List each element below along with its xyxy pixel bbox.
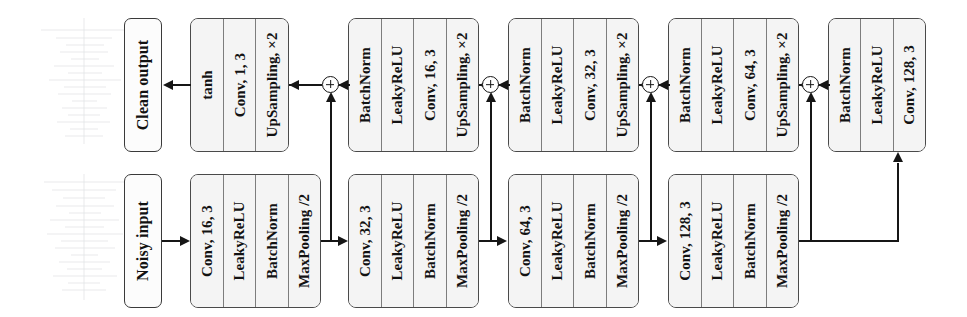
edge-input-to-enc1: [162, 240, 181, 242]
add-node-2: [482, 76, 499, 93]
skip-connection-4: [810, 99, 812, 241]
edge-enc2-to-enc3: [479, 240, 498, 242]
arrowhead-dec4-to-add3: [658, 80, 668, 90]
encoder-stage-4: Conv, 128, 3 LeakyReLU BatchNorm MaxPool…: [668, 174, 799, 308]
arrowhead-add1-to-dec1: [289, 80, 299, 90]
arrowhead-enc2-to-enc3: [497, 236, 507, 246]
skip-connection-1: [330, 99, 332, 241]
encoder-1-cell-1: Conv, 16, 3: [191, 175, 224, 307]
decoder-stage-4: BatchNorm LeakyReLU Conv, 64, 3 UpSampli…: [668, 18, 799, 152]
decoder-3-cell-1: BatchNorm: [509, 19, 542, 151]
arrowhead-dec2-to-add1: [338, 80, 348, 90]
encoder-1-cell-2: LeakyReLU: [224, 175, 257, 307]
encoder-3-cell-3: BatchNorm: [574, 175, 607, 307]
decoder-3-cell-4: UpSampling, ×2: [607, 19, 639, 151]
skip-connection-2: [490, 99, 492, 241]
encoder-3-cell-1: Conv, 64, 3: [509, 175, 542, 307]
decoder-2-cell-4: UpSampling, ×2: [447, 19, 479, 151]
arrowhead-enc3-to-enc4: [657, 236, 667, 246]
arrowhead-skip-4: [806, 92, 816, 102]
bottleneck-stage: BatchNorm LeakyReLU Conv, 128, 3: [828, 18, 926, 152]
clean-output-label: Clean output: [134, 40, 152, 131]
decoder-2-cell-2: LeakyReLU: [382, 19, 415, 151]
edge-enc4-to-bottleneck-horizontal: [799, 240, 899, 242]
add-node-3: [642, 76, 659, 93]
arrowhead-dec3-to-add2: [498, 80, 508, 90]
add-node-1: [322, 76, 339, 93]
decoder-stage-2: BatchNorm LeakyReLU Conv, 16, 3 UpSampli…: [348, 18, 479, 152]
clean-output-box: Clean output: [124, 18, 162, 152]
arrowhead-enc1-to-enc2: [338, 236, 348, 246]
decoder-stage-1: tanh Conv, 1, 3 UpSampling, ×2: [190, 18, 289, 152]
encoder-stage-3: Conv, 64, 3 LeakyReLU BatchNorm MaxPooli…: [508, 174, 639, 308]
decoder-stage-3: BatchNorm LeakyReLU Conv, 32, 3 UpSampli…: [508, 18, 639, 152]
encoder-stage-2: Conv, 32, 3 LeakyReLU BatchNorm MaxPooli…: [348, 174, 479, 308]
architecture-diagram: Clean output Noisy input tanh Conv, 1, 3…: [0, 0, 967, 317]
encoder-2-cell-1: Conv, 32, 3: [349, 175, 382, 307]
edge-enc4-to-bottleneck-vertical: [897, 163, 899, 241]
encoder-3-cell-2: LeakyReLU: [542, 175, 575, 307]
decoder-2-cell-3: Conv, 16, 3: [414, 19, 447, 151]
encoder-1-cell-3: BatchNorm: [256, 175, 289, 307]
encoder-stage-1: Conv, 16, 3 LeakyReLU BatchNorm MaxPooli…: [190, 174, 321, 308]
encoder-4-cell-4: MaxPooling /2: [767, 175, 799, 307]
encoder-4-cell-1: Conv, 128, 3: [669, 175, 702, 307]
decoder-1-cell-2: Conv, 1, 3: [224, 19, 257, 151]
arrowhead-dec1-to-output: [163, 80, 173, 90]
encoder-2-cell-4: MaxPooling /2: [447, 175, 479, 307]
decoder-3-cell-2: LeakyReLU: [542, 19, 575, 151]
encoder-4-cell-3: BatchNorm: [734, 175, 767, 307]
arrowhead-skip-2: [486, 92, 496, 102]
encoder-2-cell-2: LeakyReLU: [382, 175, 415, 307]
edge-dec1-to-output: [172, 84, 191, 86]
noisy-input-box: Noisy input: [124, 174, 162, 308]
decoder-3-cell-3: Conv, 32, 3: [574, 19, 607, 151]
decoder-4-cell-4: UpSampling, ×2: [767, 19, 799, 151]
noisy-input-waveform-icon: [38, 170, 130, 304]
arrowhead-input-to-enc1: [180, 236, 190, 246]
encoder-2-cell-3: BatchNorm: [414, 175, 447, 307]
encoder-4-cell-2: LeakyReLU: [702, 175, 735, 307]
decoder-4-cell-3: Conv, 64, 3: [734, 19, 767, 151]
clean-output-waveform-icon: [38, 14, 130, 148]
decoder-1-cell-1: tanh: [191, 19, 224, 151]
arrowhead-bottleneck-to-add4: [818, 80, 828, 90]
edge-enc3-to-enc4: [639, 240, 658, 242]
bottleneck-cell-2: LeakyReLU: [861, 19, 893, 151]
skip-connection-3: [650, 99, 652, 241]
bottleneck-cell-3: Conv, 128, 3: [894, 19, 925, 151]
encoder-1-cell-4: MaxPooling /2: [289, 175, 321, 307]
arrowhead-skip-3: [646, 92, 656, 102]
arrowhead-skip-1: [326, 92, 336, 102]
encoder-3-cell-4: MaxPooling /2: [607, 175, 639, 307]
arrowhead-enc4-to-bottleneck: [893, 152, 903, 162]
decoder-4-cell-1: BatchNorm: [669, 19, 702, 151]
decoder-2-cell-1: BatchNorm: [349, 19, 382, 151]
decoder-4-cell-2: LeakyReLU: [702, 19, 735, 151]
add-node-4: [802, 76, 819, 93]
decoder-1-cell-3: UpSampling, ×2: [256, 19, 288, 151]
noisy-input-label: Noisy input: [134, 201, 152, 281]
bottleneck-cell-1: BatchNorm: [829, 19, 861, 151]
